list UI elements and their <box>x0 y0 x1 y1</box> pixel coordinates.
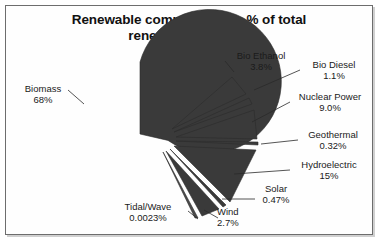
pie-label-nuclear-power: Nuclear Power 9.0% <box>291 92 369 113</box>
pie-chart-graphic <box>6 6 373 235</box>
pie-label-nuclear-power-value: 9.0% <box>291 103 369 114</box>
pie-label-tidal-wave-value: 0.0023% <box>115 213 181 224</box>
pie-label-geothermal-name: Geothermal <box>308 129 358 140</box>
pie-label-bio-diesel-name: Bio Diesel <box>313 59 356 70</box>
pie-label-tidal-wave-name: Tidal/Wave <box>125 201 172 212</box>
pie-label-solar-value: 0.47% <box>252 195 300 206</box>
pie-label-wind-value: 2.7% <box>217 218 257 229</box>
pie-label-solar: Solar 0.47% <box>252 184 300 205</box>
pie-label-geothermal-value: 0.32% <box>298 141 368 152</box>
pie-label-bio-ethanol-name: Bio Ethanol <box>237 50 286 61</box>
pie-label-nuclear-power-name: Nuclear Power <box>299 91 361 102</box>
pie-label-solar-name: Solar <box>265 183 287 194</box>
pie-label-bio-ethanol: Bio Ethanol 3.8% <box>228 51 294 72</box>
pie-label-wind: Wind 2.7% <box>217 207 257 228</box>
pie-label-biomass-name: Biomass <box>25 83 61 94</box>
pie-label-tidal-wave: Tidal/Wave 0.0023% <box>115 202 181 223</box>
pie-label-bio-diesel-value: 1.1% <box>303 71 365 82</box>
leader-line-geothermal <box>261 140 298 144</box>
chart-frame: Renewable components as % of total renew… <box>5 5 373 235</box>
pie-label-bio-diesel: Bio Diesel 1.1% <box>303 60 365 81</box>
pie-label-hydroelectric-value: 15% <box>291 171 367 182</box>
pie-label-biomass-value: 68% <box>14 95 72 106</box>
pie-label-biomass: Biomass 68% <box>14 84 72 105</box>
pie-label-hydroelectric: Hydroelectric 15% <box>291 160 367 181</box>
pie-label-wind-name: Wind <box>217 206 239 217</box>
pie-label-hydroelectric-name: Hydroelectric <box>301 159 356 170</box>
pie-label-geothermal: Geothermal 0.32% <box>298 130 368 151</box>
pie-label-bio-ethanol-value: 3.8% <box>228 62 294 73</box>
